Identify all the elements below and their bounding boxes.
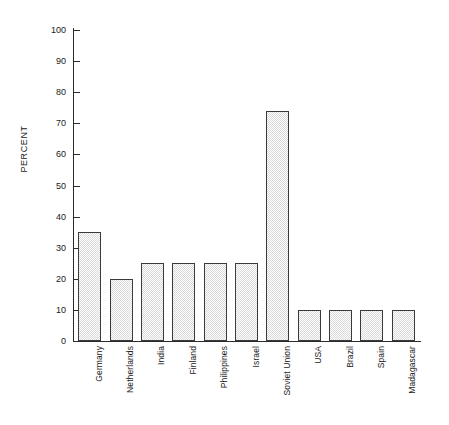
- y-axis-tick-label: 50: [38, 181, 66, 191]
- bar: [172, 263, 195, 341]
- x-axis-category-label: Soviet Union: [282, 346, 292, 395]
- y-axis-tick: [74, 341, 80, 342]
- y-axis-title: PERCENT: [19, 104, 29, 194]
- bar: [204, 263, 227, 341]
- x-axis-category-label: Finland: [188, 346, 198, 375]
- x-axis-category-label: Spain: [376, 346, 386, 368]
- y-axis-tick-label: 0: [38, 336, 66, 346]
- bar: [266, 111, 289, 341]
- y-axis-tick-label: 20: [38, 274, 66, 284]
- y-axis-tick-label: 10: [38, 305, 66, 315]
- x-axis-line: [73, 341, 421, 342]
- y-axis-tick-label: 80: [38, 87, 66, 97]
- y-axis-tick-label: 100: [38, 25, 66, 35]
- x-axis-category-label: Germany: [94, 346, 104, 382]
- bar: [360, 310, 383, 341]
- bar: [329, 310, 352, 341]
- plot-area: [74, 30, 419, 341]
- x-axis-category-label: India: [156, 346, 166, 365]
- bar: [235, 263, 258, 341]
- x-axis-category-label: USA: [313, 346, 323, 364]
- bar: [298, 310, 321, 341]
- x-axis-category-label: Israel: [251, 346, 261, 367]
- x-axis-category-label: Brazil: [345, 346, 355, 368]
- y-axis-tick-label: 70: [38, 118, 66, 128]
- bar-chart: PERCENT 0102030405060708090100 GermanyNe…: [0, 0, 449, 425]
- x-axis-category-label: Madagascar: [407, 346, 417, 394]
- y-axis-tick-label: 30: [38, 243, 66, 253]
- bar: [392, 310, 415, 341]
- y-axis-tick-label: 60: [38, 149, 66, 159]
- x-axis-category-label: Netherlands: [125, 346, 135, 393]
- bar: [141, 263, 164, 341]
- y-axis-tick-label: 40: [38, 212, 66, 222]
- bar: [110, 279, 133, 341]
- bar: [78, 232, 101, 341]
- y-axis-tick-label: 90: [38, 56, 66, 66]
- x-axis-category-label: Philippines: [219, 346, 229, 388]
